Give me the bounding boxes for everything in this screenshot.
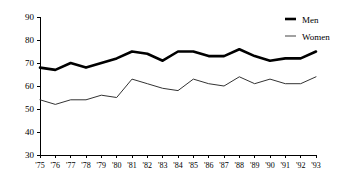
x-axis-tick-label: '93: [311, 161, 320, 170]
x-axis-tick-label: '83: [158, 161, 167, 170]
y-axis-tick-label: 50: [25, 104, 35, 114]
series-line-men: [40, 49, 316, 70]
chart-legend: MenWomen: [285, 15, 330, 42]
x-axis-tick-label: '76: [51, 161, 60, 170]
y-axis-tick-label: 60: [25, 81, 35, 91]
y-axis-tick-label: 70: [25, 58, 35, 68]
y-axis: 90807060504030: [25, 12, 40, 160]
legend-label-men: Men: [302, 15, 319, 25]
line-chart: 90807060504030 '75'76'77'78'79'80'81'82'…: [0, 0, 350, 180]
x-axis-tick-label: '75: [35, 161, 44, 170]
x-axis-tick-label: '87: [219, 161, 228, 170]
x-axis-tick-label: '80: [112, 161, 121, 170]
x-axis-tick-label: '84: [173, 161, 182, 170]
chart-plot-area: 90807060504030 '75'76'77'78'79'80'81'82'…: [0, 0, 350, 180]
x-axis-tick-label: '81: [127, 161, 136, 170]
x-axis-tick-label: '86: [204, 161, 213, 170]
y-axis-tick-label: 80: [25, 35, 35, 45]
y-axis-tick-label: 30: [25, 150, 35, 160]
series-line-women: [40, 77, 316, 105]
y-axis-tick-label: 90: [25, 12, 35, 22]
x-axis-tick-label: '77: [66, 161, 75, 170]
x-axis-tick-label: '85: [189, 161, 198, 170]
x-axis-tick-label: '88: [235, 161, 244, 170]
x-axis-tick-label: '79: [97, 161, 106, 170]
x-axis-tick-label: '82: [143, 161, 152, 170]
legend-label-women: Women: [302, 32, 330, 42]
x-axis: '75'76'77'78'79'80'81'82'83'84'85'86'87'…: [35, 155, 320, 170]
data-series-group: [40, 49, 316, 104]
x-axis-tick-label: '90: [265, 161, 274, 170]
y-axis-tick-label: 40: [25, 127, 35, 137]
x-axis-tick-label: '92: [296, 161, 305, 170]
x-axis-tick-label: '89: [250, 161, 259, 170]
x-axis-tick-label: '78: [81, 161, 90, 170]
x-axis-tick-label: '91: [281, 161, 290, 170]
